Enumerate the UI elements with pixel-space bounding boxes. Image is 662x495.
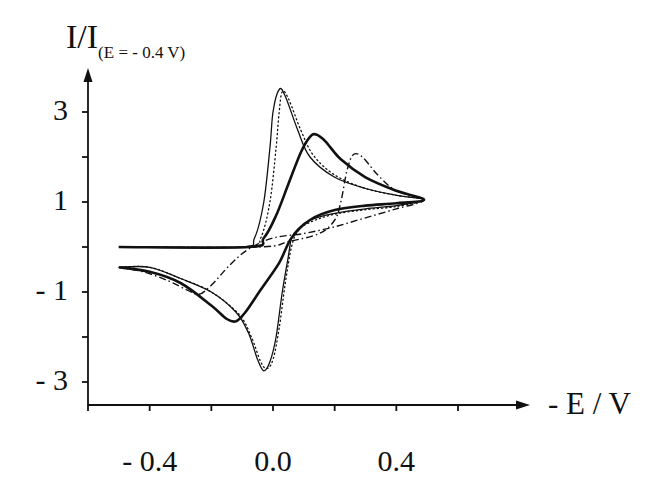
x-axis-arrow-icon <box>516 401 530 410</box>
y-axis-arrow-icon <box>84 68 93 82</box>
curve-thick-solid <box>119 134 424 322</box>
y-tick-label: - 1 <box>8 273 68 307</box>
y-tick-label: 3 <box>8 93 68 127</box>
x-tick-label: - 0.4 <box>100 444 200 478</box>
y-axis-label: I/I(E = - 0.4 V) <box>66 18 185 56</box>
curve-thin-solid <box>119 89 424 371</box>
curves <box>119 89 424 371</box>
y-axis-label-subscript: (E = - 0.4 V) <box>98 43 185 62</box>
y-tick-label: - 3 <box>8 363 68 397</box>
x-tick-label: 0.4 <box>346 444 446 478</box>
axes <box>82 68 530 411</box>
x-tick-label: 0.0 <box>223 444 323 478</box>
x-axis-label: - E / V <box>548 386 631 422</box>
y-tick-label: 1 <box>8 183 68 217</box>
